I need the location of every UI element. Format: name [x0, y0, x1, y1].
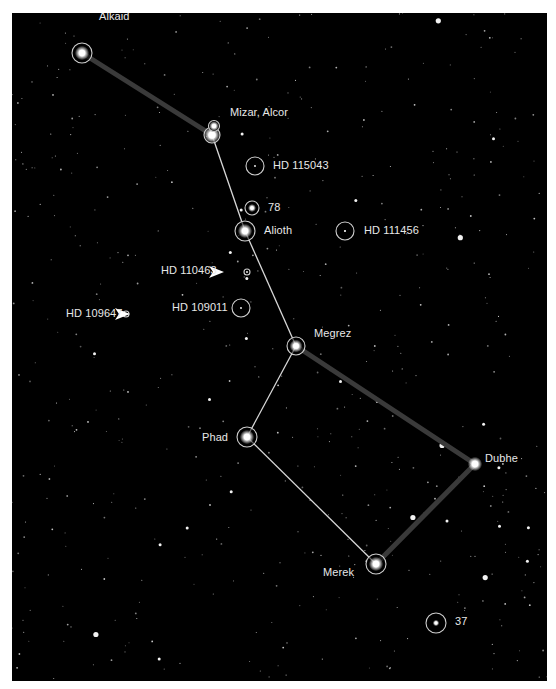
background-star	[527, 526, 530, 529]
background-star	[125, 57, 126, 58]
background-star	[30, 610, 31, 611]
background-star	[245, 277, 248, 280]
background-star	[219, 116, 220, 117]
background-star	[381, 203, 383, 205]
background-star	[380, 640, 381, 641]
background-star	[508, 511, 510, 513]
background-star	[199, 427, 201, 429]
background-star	[133, 49, 134, 50]
background-star	[523, 176, 524, 177]
background-star	[406, 382, 407, 383]
background-star	[377, 599, 378, 600]
background-star	[48, 420, 50, 422]
background-star	[53, 678, 54, 679]
background-star	[394, 650, 395, 651]
background-star	[47, 65, 48, 66]
star-phad	[237, 427, 257, 447]
background-star	[464, 610, 465, 611]
background-star	[32, 282, 34, 284]
background-star	[492, 668, 493, 669]
background-star	[25, 521, 26, 522]
background-star	[125, 645, 126, 646]
background-star	[391, 46, 393, 48]
background-star	[206, 479, 207, 480]
background-star	[220, 21, 221, 22]
background-star	[526, 475, 528, 477]
background-star	[12, 628, 13, 629]
star-core	[79, 50, 85, 56]
background-star	[457, 602, 458, 603]
background-star	[28, 641, 29, 642]
constellation-line	[296, 346, 475, 464]
background-star	[23, 632, 24, 633]
background-star	[57, 77, 58, 78]
background-star	[303, 271, 304, 272]
background-star	[533, 251, 534, 252]
background-star	[139, 602, 140, 603]
background-star	[186, 527, 189, 530]
background-star	[322, 180, 323, 181]
background-star	[265, 211, 267, 213]
background-star	[18, 374, 20, 376]
background-star	[117, 252, 118, 253]
background-star	[420, 209, 422, 211]
background-star	[29, 381, 31, 383]
background-star	[496, 112, 497, 113]
background-star	[260, 670, 261, 671]
background-star	[110, 257, 111, 258]
background-star	[158, 230, 159, 231]
background-star	[399, 469, 400, 470]
background-star	[503, 495, 504, 496]
background-star	[521, 590, 522, 591]
background-star	[408, 570, 409, 571]
label-alioth: Alioth	[264, 224, 292, 236]
star-core	[212, 124, 216, 128]
background-star	[488, 273, 490, 275]
background-star	[256, 632, 257, 633]
background-star	[50, 134, 51, 135]
background-star	[399, 13, 400, 14]
background-star	[80, 346, 82, 348]
background-star	[498, 525, 501, 528]
background-star	[125, 115, 126, 116]
background-star	[490, 277, 491, 278]
background-star	[514, 52, 515, 53]
background-star	[202, 72, 203, 73]
background-star	[287, 92, 288, 93]
background-star	[320, 353, 322, 355]
background-star	[49, 478, 51, 480]
background-star	[499, 194, 501, 196]
background-star	[474, 174, 475, 175]
star-s78	[245, 201, 259, 215]
background-star	[408, 79, 409, 80]
background-star	[419, 287, 420, 288]
star-alioth	[235, 221, 255, 241]
background-star	[69, 399, 70, 400]
background-star	[72, 425, 73, 426]
background-star	[504, 13, 505, 14]
background-star	[493, 371, 495, 373]
background-star	[115, 620, 116, 621]
background-star	[127, 391, 129, 393]
background-star	[286, 642, 287, 643]
background-star	[234, 90, 235, 91]
background-star	[225, 345, 227, 347]
background-star	[355, 465, 357, 467]
background-star	[76, 429, 78, 431]
background-star	[447, 208, 449, 210]
background-star	[529, 604, 531, 606]
background-star	[407, 638, 408, 639]
background-star	[413, 467, 415, 469]
background-star	[164, 74, 166, 76]
background-star	[359, 429, 360, 430]
background-star	[538, 554, 539, 555]
constellation-line	[247, 437, 376, 564]
background-star	[458, 594, 459, 595]
background-star	[490, 134, 491, 135]
background-star	[208, 231, 209, 232]
background-star	[341, 287, 343, 289]
background-star	[297, 465, 298, 466]
background-star	[271, 622, 272, 623]
background-star	[31, 81, 32, 82]
background-star	[365, 81, 366, 82]
